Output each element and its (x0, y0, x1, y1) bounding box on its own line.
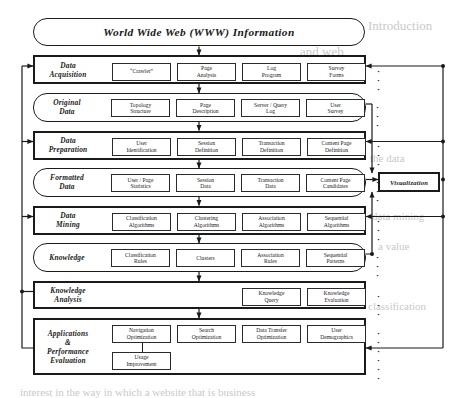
component-box[interactable]: ClassificationRules (111, 249, 170, 267)
pipeline-row: Applications&PerformanceEvaluationNaviga… (33, 318, 366, 375)
ellipsis: · · · (376, 253, 381, 280)
ellipsis: · · · (376, 178, 381, 205)
component-box[interactable]: ClusteringAlgorithms (177, 213, 236, 231)
component-box[interactable]: UserIdentification (112, 138, 171, 156)
component-box[interactable]: AssociationRules (241, 249, 300, 267)
row-cells: KnowledgeQueryKnowledgeEvaluation· · · (101, 283, 364, 307)
pipeline-row: DataMiningClassificationAlgorithmsCluste… (33, 206, 366, 235)
component-box[interactable]: TopologyStructure (111, 99, 170, 117)
component-box[interactable]: UsageImprovement (112, 352, 171, 370)
component-box[interactable]: SequentialPatterns (306, 249, 365, 267)
pipeline-row: KnowledgeAnalysisKnowledgeQueryKnowledge… (33, 281, 366, 309)
stage-label: Knowledge (34, 253, 100, 262)
component-box[interactable]: Content PageDefinition (307, 138, 366, 156)
figure-title: World Wide Web (WWW) Information (33, 18, 365, 46)
component-box[interactable]: UserDemographics (307, 325, 366, 343)
component-box[interactable]: Server / QueryLog (241, 99, 300, 117)
component-box[interactable]: KnowledgeQuery (242, 288, 301, 306)
component-box[interactable]: Data TransferOptimization (242, 325, 301, 343)
component-box[interactable]: PageDescription (176, 99, 235, 117)
stage-label: Applications&PerformanceEvaluation (35, 329, 101, 365)
row-cells: NavigationOptimizationSearchOptimization… (101, 320, 364, 373)
ellipsis: · · · (376, 103, 381, 130)
component-box[interactable]: AssociationAlgorithms (242, 213, 301, 231)
component-box[interactable]: TransactionDefinition (242, 138, 301, 156)
component-box[interactable]: Clusters (176, 249, 235, 267)
component-box[interactable]: SessionDefinition (177, 138, 236, 156)
component-box[interactable]: Content PageCandidates (306, 174, 365, 192)
ellipsis: · · · (377, 329, 382, 356)
component-box[interactable]: SequentialAlgorithms (307, 213, 366, 231)
row-cells: User / PageStatisticsSessionDataTransact… (100, 169, 365, 196)
component-box[interactable]: UserSurvey (306, 99, 365, 117)
pipeline-row: DataAcquisition“Crawler”PageAnalysisLogP… (33, 55, 366, 84)
ellipsis: · · · (377, 217, 382, 244)
pipeline-row: OriginalDataTopologyStructurePageDescrip… (33, 93, 366, 122)
component-box[interactable]: “Crawler” (112, 63, 171, 81)
component-box[interactable]: SurveyForms (307, 63, 366, 81)
component-box[interactable]: LogProgram (242, 63, 301, 81)
component-box[interactable]: KnowledgeEvaluation (307, 288, 366, 306)
row-cells: UserIdentificationSessionDefinitionTrans… (101, 133, 364, 158)
ellipsis: · · · (377, 356, 382, 383)
stage-label: DataAcquisition (35, 61, 101, 79)
stage-label: FormattedData (34, 173, 100, 191)
sub-connector (142, 343, 143, 352)
component-box[interactable]: PageAnalysis (177, 63, 236, 81)
pipeline-row: DataPreparationUserIdentificationSession… (33, 131, 366, 160)
visualization-box: Visualization (378, 172, 440, 192)
ellipsis: · · · (377, 142, 382, 169)
component-box[interactable]: SearchOptimization (177, 325, 236, 343)
component-box[interactable]: User / PageStatistics (111, 174, 170, 192)
stage-label: DataPreparation (35, 136, 101, 154)
pipeline-row: KnowledgeClassificationRulesClustersAsso… (33, 243, 366, 272)
ellipsis: · · · (377, 67, 382, 94)
row-cells: TopologyStructurePageDescriptionServer /… (100, 94, 365, 121)
component-box[interactable]: SessionData (176, 174, 235, 192)
stage-label: OriginalData (34, 98, 100, 116)
row-cells: “Crawler”PageAnalysisLogProgramSurveyFor… (101, 57, 364, 82)
row-cells: ClassificationRulesClustersAssociationRu… (100, 244, 365, 271)
component-box[interactable]: TransactionData (241, 174, 300, 192)
pipeline-row: FormattedDataUser / PageStatisticsSessio… (33, 168, 366, 197)
stage-label: DataMining (35, 211, 101, 229)
stage-label: KnowledgeAnalysis (35, 286, 101, 304)
ellipsis: · · · (377, 292, 382, 319)
row-cells: ClassificationAlgorithmsClusteringAlgori… (101, 208, 364, 233)
component-box[interactable]: NavigationOptimization (112, 325, 171, 343)
component-box[interactable]: ClassificationAlgorithms (112, 213, 171, 231)
